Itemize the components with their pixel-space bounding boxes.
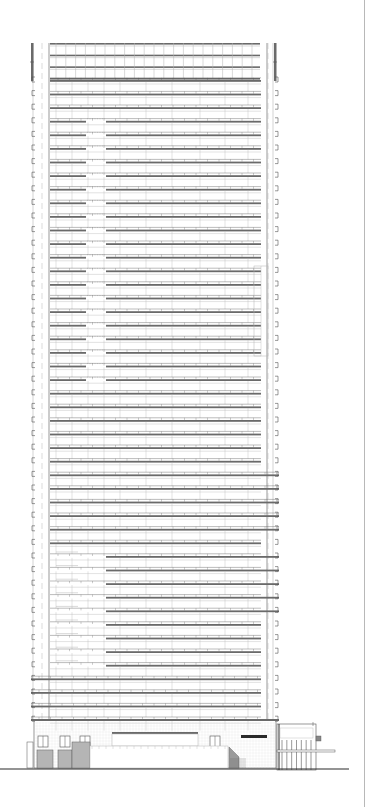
side-fin-left xyxy=(32,553,35,558)
balcony-slab xyxy=(106,624,261,626)
balcony-slab xyxy=(31,706,261,708)
balcony-slab xyxy=(50,325,86,327)
crown-band xyxy=(50,43,260,45)
side-fin-left xyxy=(32,322,35,327)
balcony-slab xyxy=(106,638,261,640)
balcony-slab xyxy=(106,284,261,286)
side-fin-right xyxy=(275,118,278,123)
balcony-slab xyxy=(106,597,279,599)
side-fin-right xyxy=(275,145,278,150)
balcony-slab xyxy=(50,474,279,476)
side-fin-right xyxy=(275,308,278,313)
building-sign-bar xyxy=(241,735,267,738)
annex-upper-band xyxy=(280,728,313,738)
retail-frontage xyxy=(112,734,198,746)
side-fin-left xyxy=(32,635,35,640)
side-fin-right xyxy=(275,376,278,381)
balcony-slab xyxy=(50,529,279,531)
side-fin-right xyxy=(275,199,278,204)
balcony-slab xyxy=(106,270,261,272)
side-fin-right xyxy=(275,322,278,327)
balcony-slab xyxy=(50,311,86,313)
balcony-slab xyxy=(50,257,86,259)
side-fin-right xyxy=(275,172,278,177)
side-fin-left xyxy=(32,227,35,232)
podium-side-post xyxy=(27,742,33,768)
balcony-slab xyxy=(50,352,86,354)
side-fin-left xyxy=(32,308,35,313)
side-fin-right xyxy=(275,648,278,653)
crown-band xyxy=(50,78,260,80)
balcony-slab xyxy=(106,379,261,381)
side-fin-right xyxy=(275,159,278,164)
side-fin-left xyxy=(32,471,35,476)
side-fin-right xyxy=(275,539,278,544)
side-fin-right xyxy=(275,403,278,408)
balcony-slab xyxy=(50,189,86,191)
side-fin-right xyxy=(275,444,278,449)
side-fin-left xyxy=(32,648,35,653)
side-fin-left xyxy=(32,662,35,667)
balcony-slab xyxy=(106,352,261,354)
balcony-slab xyxy=(50,94,261,96)
balcony-slab xyxy=(50,162,86,164)
balcony-slab xyxy=(50,461,261,463)
side-fin-left xyxy=(32,594,35,599)
side-fin-left xyxy=(32,499,35,504)
side-fin-left xyxy=(32,403,35,408)
side-fin-left xyxy=(32,417,35,422)
balcony-slab xyxy=(106,134,261,136)
side-fin-left xyxy=(32,254,35,259)
balcony-slab xyxy=(106,189,261,191)
side-fin-left xyxy=(32,159,35,164)
balcony-slab xyxy=(106,257,261,259)
podium-plinth xyxy=(90,746,228,768)
side-fin-left xyxy=(32,349,35,354)
side-fin-right xyxy=(275,689,278,694)
side-fin-left xyxy=(32,213,35,218)
balcony-slab xyxy=(50,270,86,272)
balcony-slab xyxy=(106,162,261,164)
side-fin-right xyxy=(275,186,278,191)
garage-door xyxy=(37,750,53,768)
side-fin-left xyxy=(32,118,35,123)
side-fin-left xyxy=(32,186,35,191)
side-fin-left xyxy=(32,131,35,136)
balcony-slab xyxy=(50,298,86,300)
balcony-slab xyxy=(106,202,261,204)
side-fin-left xyxy=(32,567,35,572)
balcony-slab xyxy=(50,80,261,82)
side-fin-right xyxy=(275,131,278,136)
tower-elevation-svg xyxy=(0,0,371,807)
balcony-slab xyxy=(50,379,86,381)
side-fin-left xyxy=(32,621,35,626)
side-fin-right xyxy=(275,635,278,640)
balcony-slab xyxy=(50,434,261,436)
balcony-slab xyxy=(106,366,261,368)
balcony-slab xyxy=(50,216,86,218)
balcony-slab xyxy=(50,134,86,136)
side-fin-right xyxy=(275,281,278,286)
side-fin-right xyxy=(275,240,278,245)
podium-canopy xyxy=(112,732,198,734)
podium-cornice xyxy=(31,719,279,721)
balcony-slab xyxy=(50,175,86,177)
crown-band xyxy=(50,66,260,68)
elevation-drawing xyxy=(0,0,371,807)
balcony-slab xyxy=(106,175,261,177)
balcony-slab xyxy=(50,284,86,286)
side-fin-right xyxy=(275,335,278,340)
side-fin-left xyxy=(32,376,35,381)
balcony-slab xyxy=(106,556,279,558)
side-fin-right xyxy=(275,390,278,395)
balcony-slab xyxy=(50,243,86,245)
balcony-slab xyxy=(50,338,86,340)
balcony-slab xyxy=(31,692,261,694)
balcony-slab xyxy=(50,230,86,232)
side-fin-left xyxy=(32,199,35,204)
balcony-slab xyxy=(106,121,261,123)
balcony-slab xyxy=(106,311,261,313)
side-fin-left xyxy=(32,431,35,436)
side-fin-right xyxy=(275,104,278,109)
side-fin-left xyxy=(32,526,35,531)
